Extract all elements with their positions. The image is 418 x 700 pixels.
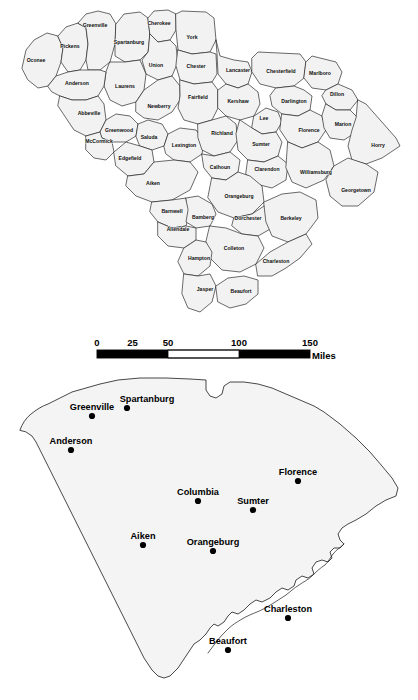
city-dot-beaufort <box>225 647 231 653</box>
map-page: OconeePickensGreenvilleSpartanburgCherok… <box>0 0 418 700</box>
south-carolina-city-map: GreenvilleSpartanburgAndersonFlorenceCol… <box>0 0 418 700</box>
city-label-florence: Florence <box>279 467 317 477</box>
city-dot-sumter <box>250 507 256 513</box>
city-label-spartanburg: Spartanburg <box>120 394 175 404</box>
city-dot-charleston <box>285 615 291 621</box>
city-dot-columbia <box>195 498 201 504</box>
city-label-columbia: Columbia <box>177 487 220 497</box>
city-dot-greenville <box>89 413 95 419</box>
city-dot-aiken <box>140 542 146 548</box>
city-label-greenville: Greenville <box>70 402 114 412</box>
city-marker-beaufort: Beaufort <box>209 636 247 653</box>
city-dot-spartanburg <box>124 405 130 411</box>
state-outline-shape <box>20 378 398 678</box>
city-dot-anderson <box>68 447 74 453</box>
city-label-charleston: Charleston <box>264 604 312 614</box>
city-label-aiken: Aiken <box>130 531 155 541</box>
city-label-orangeburg: Orangeburg <box>187 537 240 547</box>
city-label-beaufort: Beaufort <box>209 636 247 646</box>
city-dot-florence <box>295 478 301 484</box>
city-label-anderson: Anderson <box>50 436 93 446</box>
city-dot-orangeburg <box>210 548 216 554</box>
city-marker-charleston: Charleston <box>264 604 312 621</box>
city-label-sumter: Sumter <box>237 496 269 506</box>
